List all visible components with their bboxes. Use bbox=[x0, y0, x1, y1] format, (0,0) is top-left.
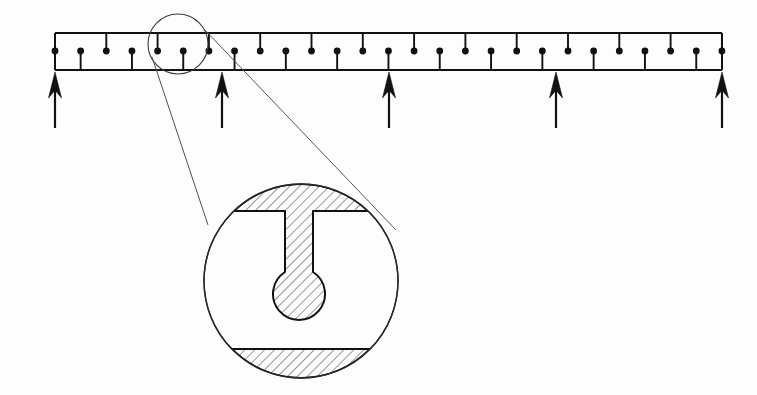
beam-node-dot bbox=[411, 48, 418, 55]
beam-node-dot bbox=[693, 48, 700, 55]
beam-node-dot bbox=[565, 48, 572, 55]
support-arrow bbox=[216, 72, 229, 128]
beam-node-dot bbox=[129, 48, 136, 55]
beam-node-dot bbox=[77, 48, 84, 55]
bulb-tee-section bbox=[232, 184, 370, 378]
beam-node-dot bbox=[359, 48, 366, 55]
beam-assembly bbox=[52, 33, 726, 70]
beam-node-dot bbox=[334, 48, 341, 55]
enlarged-section-view bbox=[204, 184, 398, 378]
beam-node-dot bbox=[642, 48, 649, 55]
support-arrow bbox=[383, 72, 396, 128]
beam-node-dot bbox=[103, 48, 110, 55]
support-arrow bbox=[716, 72, 729, 128]
beam-node-dot bbox=[308, 48, 315, 55]
beam-node-dot bbox=[52, 48, 59, 55]
beam-node-dot bbox=[282, 48, 289, 55]
bottom-flange-profile bbox=[232, 349, 370, 378]
diagram-root bbox=[0, 0, 757, 395]
beam-node-dot bbox=[180, 48, 187, 55]
support-arrow bbox=[550, 72, 563, 128]
beam-node-dot bbox=[513, 48, 520, 55]
beam-node-dot bbox=[590, 48, 597, 55]
technical-drawing-canvas bbox=[0, 0, 757, 395]
support-arrow-group bbox=[49, 72, 729, 128]
beam-node-dot bbox=[539, 48, 546, 55]
beam-node-dot bbox=[436, 48, 443, 55]
tee-and-bulb-profile bbox=[234, 184, 368, 320]
beam-node-dot bbox=[616, 48, 623, 55]
beam-node-dot bbox=[257, 48, 264, 55]
support-arrow bbox=[49, 72, 62, 128]
beam-node-dot bbox=[385, 48, 392, 55]
detail-leader-line bbox=[152, 57, 208, 225]
beam-node-dot bbox=[231, 48, 238, 55]
beam-node-dot bbox=[667, 48, 674, 55]
beam-node-dot bbox=[488, 48, 495, 55]
beam-node-dot bbox=[462, 48, 469, 55]
beam-node-dot bbox=[719, 48, 726, 55]
beam-node-dot bbox=[154, 48, 161, 55]
